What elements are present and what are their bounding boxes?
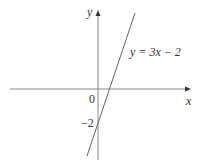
equation-label: y = 3x − 2 — [130, 46, 181, 58]
origin-label: 0 — [89, 93, 95, 105]
intercept-label: −2 — [81, 117, 94, 129]
y-axis-arrow-icon — [96, 10, 101, 16]
line-y-3x-minus-2 — [87, 13, 135, 156]
x-axis-arrow-icon — [185, 87, 191, 92]
graph-canvas — [0, 0, 202, 164]
x-axis-label: x — [186, 95, 191, 107]
y-axis-label: y — [87, 6, 92, 18]
